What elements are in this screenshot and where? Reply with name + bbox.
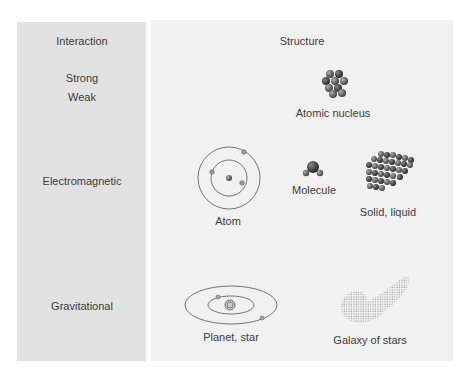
lattice-icon — [363, 150, 417, 192]
label-solid-liquid: Solid, liquid — [360, 206, 416, 218]
structure-header: Structure — [280, 35, 325, 47]
nucleus-icon — [318, 66, 352, 100]
label-planet-star: Planet, star — [203, 331, 259, 343]
label-atomic-nucleus: Atomic nucleus — [296, 107, 371, 119]
interaction-electromagnetic: Electromagnetic — [43, 175, 122, 187]
atom-icon — [196, 145, 262, 211]
interaction-weak: Weak — [68, 91, 96, 103]
label-molecule: Molecule — [292, 184, 336, 196]
solar-system-icon — [183, 284, 279, 326]
label-galaxy: Galaxy of stars — [333, 334, 406, 346]
galaxy-icon — [336, 272, 416, 334]
label-atom: Atom — [215, 215, 241, 227]
interaction-header: Interaction — [56, 35, 107, 47]
interaction-strong: Strong — [66, 72, 98, 84]
interaction-gravitational: Gravitational — [51, 300, 113, 312]
molecule-icon — [300, 158, 326, 180]
